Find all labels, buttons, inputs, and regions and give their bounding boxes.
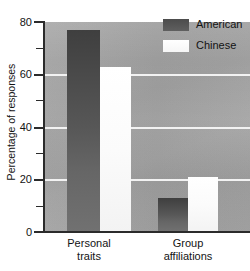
- legend-label-american: American: [196, 19, 242, 30]
- y-tick-40: [34, 127, 44, 129]
- y-tick-10: [36, 206, 44, 207]
- bar-chinese-personal-traits: [100, 67, 131, 232]
- y-tick-label-80: 80: [0, 17, 32, 27]
- y-tick-50: [36, 100, 44, 101]
- bar-chart-figure: American Chinese 80 60 40 20 0 Percentag…: [0, 0, 250, 271]
- y-tick-30: [36, 153, 44, 154]
- y-tick-80: [34, 21, 44, 23]
- bar-american-personal-traits: [67, 30, 100, 232]
- plot-area: American Chinese: [45, 22, 250, 232]
- y-tick-60: [34, 74, 44, 76]
- y-axis-title: Percentage of responses: [5, 47, 17, 197]
- x-category-label-group-affiliations-line2: affiliations: [142, 250, 234, 263]
- legend-entry-chinese: Chinese: [163, 37, 242, 54]
- bar-chinese-group-affiliations: [188, 177, 218, 232]
- x-category-label-group-affiliations-line1: Group: [142, 237, 234, 250]
- y-tick-70: [36, 48, 44, 49]
- legend-swatch-american-icon: [163, 19, 189, 31]
- y-tick-20: [34, 179, 44, 181]
- y-tick-0: [34, 231, 44, 233]
- x-category-label-group-affiliations: Group affiliations: [142, 237, 234, 263]
- x-category-label-personal-traits-line1: Personal: [48, 237, 130, 250]
- legend-swatch-chinese-icon: [163, 40, 189, 52]
- legend-label-chinese: Chinese: [196, 40, 236, 51]
- legend: American Chinese: [163, 16, 242, 58]
- legend-entry-american: American: [163, 16, 242, 33]
- x-category-label-personal-traits: Personal traits: [48, 237, 130, 263]
- bar-american-group-affiliations: [158, 198, 188, 232]
- y-tick-label-0: 0: [0, 227, 32, 237]
- x-axis-line: [43, 231, 250, 233]
- x-category-label-personal-traits-line2: traits: [48, 250, 130, 263]
